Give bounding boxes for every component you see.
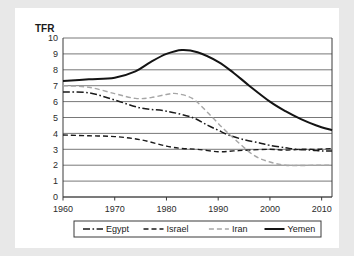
series-line-iran [63,86,332,166]
data-series [63,50,332,166]
legend-label-egypt[interactable]: Egypt [106,224,130,234]
y-tick-label-2: 2 [53,160,58,170]
y-axis-tick-labels: 012345678910 [48,33,58,202]
legend-label-iran[interactable]: Iran [232,224,248,234]
x-tick-label-2000: 2000 [260,204,280,214]
legend-label-israel[interactable]: Israel [167,224,189,234]
y-tick-label-7: 7 [53,81,58,91]
y-tick-label-8: 8 [53,65,58,75]
y-tick-label-3: 3 [53,145,58,155]
y-tick-label-6: 6 [53,97,58,107]
x-tick-label-2010: 2010 [312,204,332,214]
y-tick-label-0: 0 [53,192,58,202]
x-axis-tick-labels: 196019701980199020002010 [53,197,332,214]
tfr-line-chart: 012345678910 196019701980199020002010 TF… [15,8,339,248]
y-axis-title: TFR [35,23,55,34]
y-tick-label-4: 4 [53,129,58,139]
y-tick-label-10: 10 [48,33,58,43]
y-tick-label-5: 5 [53,113,58,123]
chart-card: 012345678910 196019701980199020002010 TF… [15,8,339,248]
chart-legend[interactable]: EgyptIsraelIranYemen [74,221,321,237]
y-tick-label-9: 9 [53,49,58,59]
y-tick-label-1: 1 [53,176,58,186]
x-tick-label-1980: 1980 [156,204,176,214]
series-line-egypt [63,92,332,151]
x-tick-label-1990: 1990 [208,204,228,214]
x-tick-label-1970: 1970 [105,204,125,214]
x-tick-label-1960: 1960 [53,204,73,214]
gridlines [63,38,332,197]
legend-label-yemen[interactable]: Yemen [288,224,316,234]
